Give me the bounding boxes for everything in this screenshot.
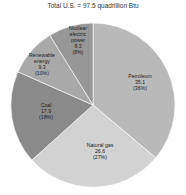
svg-text:(10%): (10%) (35, 70, 49, 76)
svg-text:(27%): (27%) (93, 154, 107, 160)
pie-chart: Petroleum 35.1 (36%) Natural gas 26.6 (2… (0, 0, 186, 195)
svg-text:(8%): (8%) (73, 49, 84, 55)
svg-text:(36%): (36%) (133, 85, 147, 91)
svg-text:(18%): (18%) (39, 114, 53, 120)
